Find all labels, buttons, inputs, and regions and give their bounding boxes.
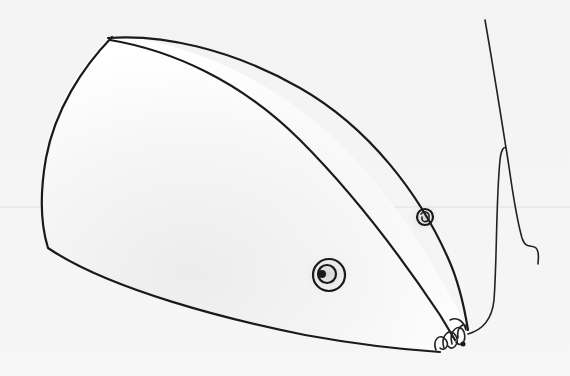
eye-shadow bbox=[406, 200, 442, 236]
mouse-sketch bbox=[0, 0, 570, 376]
sketch-canvas: Pencil sketch of a cone-shaped mouse wit… bbox=[0, 0, 570, 376]
mouse-body-fill bbox=[41, 36, 468, 352]
string-curl bbox=[506, 148, 539, 264]
string-tail bbox=[468, 20, 506, 334]
